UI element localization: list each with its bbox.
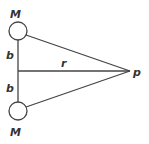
r-label: r [61,57,67,70]
top-mass-label: M [10,8,21,21]
upper-b-label: b [6,49,14,62]
bottom-mass-to-p-line [26,71,130,107]
p-label: p [132,66,141,79]
bottom-mass-circle [9,102,27,120]
bottom-mass-label: M [10,126,21,139]
top-mass-circle [9,22,27,40]
top-mass-to-p-line [26,35,130,71]
two-mass-gravity-diagram: M M b b r p [0,0,149,144]
lower-b-label: b [6,82,14,95]
